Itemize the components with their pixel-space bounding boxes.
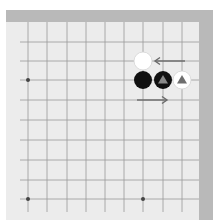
board-top-edge	[6, 10, 213, 22]
black-stone	[134, 71, 152, 89]
board-right-edge	[199, 10, 213, 220]
white-stone-marked	[173, 71, 191, 89]
black-stone-marked	[154, 71, 172, 89]
go-board	[0, 0, 214, 224]
star-point-icon	[141, 197, 145, 201]
star-point-icon	[26, 78, 30, 82]
star-point-icon	[26, 197, 30, 201]
white-stone	[134, 52, 152, 70]
